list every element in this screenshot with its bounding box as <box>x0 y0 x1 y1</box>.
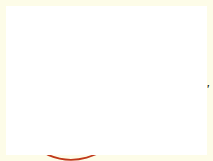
figure-frame: A B B' A' α α β β νε <box>0 0 213 161</box>
figure-canvas <box>6 6 207 155</box>
